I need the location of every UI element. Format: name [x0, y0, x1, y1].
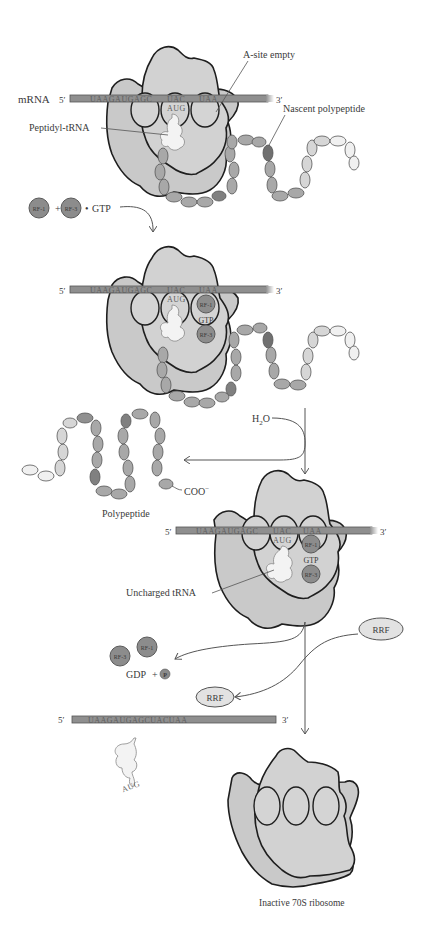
- svg-text:RF-3: RF-3: [305, 572, 317, 578]
- anticodon: AUG: [167, 104, 186, 113]
- svg-text:UAA: UAA: [303, 527, 322, 536]
- gdp-label: GDP: [126, 669, 146, 680]
- svg-text:3′: 3′: [276, 286, 283, 296]
- arrow-factors-out: [175, 622, 305, 659]
- svg-text:RRF: RRF: [372, 625, 389, 635]
- svg-text:5′: 5′: [59, 286, 66, 296]
- svg-text:+: +: [55, 203, 61, 214]
- p-site-codon: UAC: [167, 95, 185, 104]
- svg-text:RF-1: RF-1: [305, 542, 317, 548]
- mrna-sequence: UAAGAUGAGC: [90, 95, 152, 104]
- svg-text:3′: 3′: [282, 715, 289, 725]
- svg-text:RF-1: RF-1: [200, 302, 212, 308]
- svg-text:RF-3: RF-3: [65, 206, 77, 212]
- nascent-polypeptide-label: Nascent polypeptide: [283, 103, 365, 114]
- free-trna-icon: [115, 738, 137, 787]
- reagent-rf1-rf3-gtp: RF-1 + RF-3 • GTP: [29, 198, 111, 218]
- svg-text:GTP: GTP: [198, 316, 214, 325]
- a-site-codon: UAA: [199, 95, 218, 104]
- cterminus-label: COO−: [184, 485, 209, 497]
- peptidyl-trna-label: Peptidyl-tRNA: [29, 122, 90, 133]
- svg-text:RF-3: RF-3: [200, 332, 212, 338]
- svg-text:+: +: [152, 669, 158, 680]
- svg-text:AUG: AUG: [273, 536, 292, 545]
- a-site-empty-label: A-site empty: [243, 49, 295, 60]
- svg-text:•: •: [85, 203, 89, 214]
- svg-text:GTP: GTP: [303, 556, 319, 565]
- svg-text:UAA: UAA: [199, 286, 218, 295]
- free-trna-anticodon: AUG: [121, 779, 142, 794]
- free-mrna-sequence: UAAGAUGAGCUACUAA: [88, 716, 188, 725]
- svg-text:AUG: AUG: [167, 295, 186, 304]
- svg-text:P: P: [163, 672, 167, 678]
- released-polypeptide: [22, 409, 182, 499]
- water-label: H2O: [252, 413, 270, 427]
- svg-text:RF-1: RF-1: [141, 645, 153, 651]
- svg-text:RF-1: RF-1: [33, 206, 45, 212]
- polypeptide-label: Polypeptide: [102, 508, 150, 519]
- svg-text:UAAGAUGAGC: UAAGAUGAGC: [196, 527, 258, 536]
- svg-text:UAAGAUGAGC: UAAGAUGAGC: [90, 286, 152, 295]
- arrow-rf-binding: [120, 207, 153, 232]
- svg-text:UAC: UAC: [273, 527, 291, 536]
- arrow-release: [184, 418, 305, 460]
- inactive-ribosome-label: Inactive 70S ribosome: [259, 898, 344, 908]
- svg-text:5′: 5′: [58, 715, 65, 725]
- svg-text:5′: 5′: [165, 527, 172, 537]
- svg-text:GTP: GTP: [92, 203, 111, 214]
- svg-text:UAC: UAC: [167, 286, 185, 295]
- svg-text:RRF: RRF: [206, 693, 223, 703]
- three-prime-label: 3′: [276, 95, 283, 105]
- svg-text:3′: 3′: [380, 527, 387, 537]
- termination-diagram: mRNA 5′ 3′ UAAGAUGAGC UAC UAA AUG A-site…: [0, 0, 423, 932]
- svg-text:RF-3: RF-3: [114, 654, 126, 660]
- five-prime-label: 5′: [59, 95, 66, 105]
- mrna-label: mRNA: [18, 93, 50, 105]
- inactive-70s-ribosome: [228, 749, 358, 887]
- uncharged-trna-label: Uncharged tRNA: [126, 587, 197, 598]
